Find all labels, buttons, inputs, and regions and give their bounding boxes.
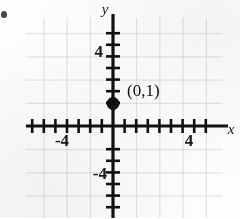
x-axis-label: x — [227, 121, 235, 137]
point-coordinate-label: (0,1) — [127, 81, 160, 100]
y-axis-label: y — [100, 1, 109, 17]
graph-figure: y x 4 -4 -4 4 (0,1) — [0, 0, 240, 218]
coordinate-plane-svg: y x 4 -4 -4 4 (0,1) — [0, 0, 240, 218]
grid-lines — [26, 18, 223, 219]
y-tick-label-negative-4: -4 — [93, 164, 108, 183]
x-tick-label-positive-4: 4 — [185, 131, 194, 150]
x-tick-label-negative-4: -4 — [55, 131, 70, 150]
y-tick-label-positive-4: 4 — [95, 42, 104, 61]
